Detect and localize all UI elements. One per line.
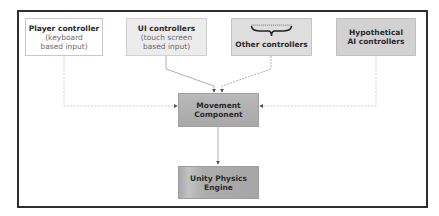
node-title: UI controllers — [138, 24, 195, 33]
node-hypothetical-ai-controllers: Hypothetical AI controllers — [336, 18, 416, 56]
node-subtitle: (touch screen — [141, 33, 192, 42]
node-subtitle: (keyboard — [45, 33, 83, 42]
node-unity-physics-engine: Unity Physics Engine — [178, 166, 259, 199]
node-subtitle: based input) — [40, 42, 87, 51]
node-title: Unity Physics Engine — [179, 174, 258, 192]
node-title: Hypothetical — [349, 28, 403, 37]
node-title: Player controller — [29, 24, 100, 33]
node-title: Movement — [196, 101, 240, 110]
node-title: AI controllers — [348, 37, 405, 46]
node-movement-component: Movement Component — [178, 93, 259, 127]
node-title: Component — [194, 110, 242, 119]
node-title: Other controllers — [235, 40, 307, 49]
edge-ui-to-movement — [166, 56, 214, 92]
node-player-controller: Player controller (keyboard based input) — [25, 18, 103, 56]
node-ui-controllers: UI controllers (touch screen based input… — [126, 18, 207, 56]
node-subtitle: based input) — [143, 42, 190, 51]
edge-player-to-movement — [64, 56, 177, 106]
edge-ai-to-movement — [260, 56, 376, 106]
node-other-controllers: Other controllers — [231, 18, 312, 56]
brace-icon — [232, 23, 311, 39]
edge-other-to-movement — [222, 56, 271, 92]
